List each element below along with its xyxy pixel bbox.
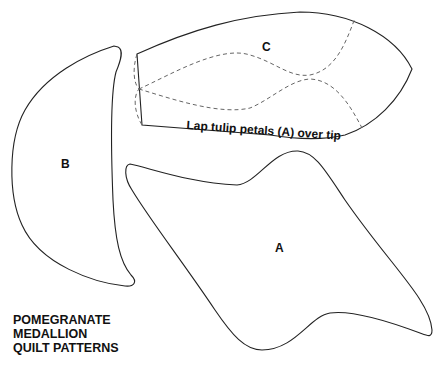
title-line-2: MEDALLION [13,327,119,341]
pattern-piece-b-outline [12,46,135,286]
pattern-piece-c-seam-upper [139,18,355,89]
pattern-piece-c-outline [137,12,412,139]
pattern-title: POMEGRANATE MEDALLION QUILT PATTERNS [13,313,119,355]
pattern-piece-c-seam-lower [139,79,362,128]
piece-c-label: C [262,40,271,54]
title-line-1: POMEGRANATE [13,313,119,327]
piece-b-label: B [61,157,70,171]
title-line-3: QUILT PATTERNS [13,341,119,355]
piece-a-label: A [275,241,284,255]
